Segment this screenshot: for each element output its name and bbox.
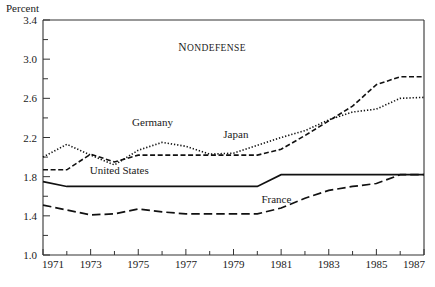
y-tick-label: 1.4 [23,210,37,222]
x-tick-label: 1973 [80,258,103,270]
nondefense-spending-line-chart: Percent 1.01.41.82.22.63.03.4 1971197319… [0,0,435,287]
chart-title-text: NONDEFENSE [178,41,246,53]
x-tick-label: 1971 [42,258,64,270]
y-tick-label: 1.0 [23,249,37,261]
series-line-japan [43,77,424,170]
y-tick-label: 2.2 [23,132,37,144]
y-axis-major-ticks [43,20,50,255]
x-tick-label: 1985 [365,258,388,270]
chart-title: NONDEFENSE [178,41,246,53]
x-tick-label: 1977 [175,258,198,270]
x-axis-major-ticks [43,249,424,255]
x-axis-tick-labels: 197119731975197719791981198319851987 [42,258,426,270]
y-tick-label: 2.6 [23,92,37,104]
series-line-france [43,175,424,215]
x-tick-label: 1979 [223,258,246,270]
y-tick-label: 1.8 [23,171,37,183]
y-axis-unit-label: Percent [6,2,39,14]
y-axis-tick-labels: 1.01.41.82.22.63.03.4 [23,14,37,261]
series-label-japan: Japan [223,128,249,140]
data-series-group [43,77,424,215]
x-tick-label: 1975 [127,258,150,270]
series-label-united-states: United States [90,164,149,176]
x-tick-label: 1981 [270,258,292,270]
x-tick-label: 1987 [403,258,426,270]
series-inline-labels: JapanGermanyUnited StatesFrance [90,116,292,205]
y-tick-label: 3.4 [23,14,37,26]
series-label-germany: Germany [132,116,173,128]
x-tick-label: 1983 [318,258,341,270]
y-tick-label: 3.0 [23,53,37,65]
series-label-france: France [261,193,291,205]
chart-figure: Percent 1.01.41.82.22.63.03.4 1971197319… [0,0,435,287]
